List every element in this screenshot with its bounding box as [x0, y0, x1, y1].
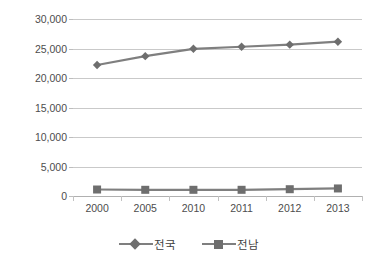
legend-entry-jeonguk[interactable]: 전국 [119, 236, 176, 252]
data-point-diamond [189, 45, 197, 53]
legend-label-jeonguk: 전국 [154, 236, 176, 252]
data-point-diamond [334, 38, 342, 46]
line-chart: 30,00025,00020,00015,00010,0005,0000 200… [0, 0, 378, 270]
diamond-marker-icon [119, 238, 153, 250]
series-2 [93, 184, 342, 193]
data-point-square [189, 186, 197, 194]
data-point-square [286, 185, 294, 193]
series-layer [0, 0, 378, 270]
series-line [97, 188, 338, 189]
chart-legend: 전국 전남 [0, 232, 378, 256]
data-point-diamond [141, 52, 149, 60]
data-point-square [141, 186, 149, 194]
data-point-square [334, 184, 342, 192]
data-point-square [93, 186, 101, 194]
data-point-diamond [286, 40, 294, 48]
square-marker-icon [202, 238, 236, 250]
data-point-diamond [93, 61, 101, 69]
series-line [97, 42, 338, 65]
data-point-square [238, 186, 246, 194]
legend-label-jeonnam: 전남 [237, 236, 259, 252]
series-1 [93, 38, 342, 70]
data-point-diamond [237, 43, 245, 51]
legend-entry-jeonnam[interactable]: 전남 [202, 236, 259, 252]
